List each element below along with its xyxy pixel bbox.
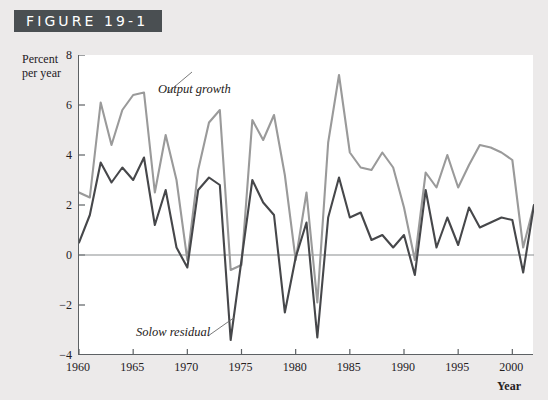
x-axis-title: Year — [497, 379, 521, 394]
x-tick-label: 1975 — [217, 360, 265, 375]
y-tick-label: 8 — [46, 48, 72, 63]
line-series-solow-residual — [79, 158, 534, 341]
plot-area — [78, 55, 533, 355]
figure-number-banner: FIGURE 19-1 — [14, 10, 162, 32]
y-axis-tick-marks — [79, 55, 85, 355]
x-tick-label: 1990 — [379, 360, 427, 375]
x-tick-label: 1980 — [271, 360, 319, 375]
x-axis-tick-marks — [79, 349, 512, 355]
y-tick-label: 6 — [46, 98, 72, 113]
y-tick-label: 2 — [46, 198, 72, 213]
series-label-solow-residual: Solow residual — [136, 325, 210, 340]
x-tick-label: 2000 — [487, 360, 535, 375]
x-axis-tick-labels: 196019651970197519801985199019952000 — [78, 360, 533, 378]
y-axis-tick-labels: 86420−2−4 — [44, 55, 72, 355]
x-tick-label: 1970 — [162, 360, 210, 375]
x-tick-label: 1985 — [325, 360, 373, 375]
x-tick-label: 1965 — [108, 360, 156, 375]
series-label-output-growth: Output growth — [158, 82, 231, 97]
x-tick-label: 1995 — [433, 360, 481, 375]
line-series-output-growth — [79, 75, 534, 303]
chart-canvas — [79, 55, 534, 355]
y-tick-label: −2 — [46, 298, 72, 313]
y-tick-label: 0 — [46, 248, 72, 263]
y-tick-label: 4 — [46, 148, 72, 163]
figure-container: FIGURE 19-1 Percent per year 86420−2−4 1… — [0, 0, 548, 400]
x-tick-label: 1960 — [54, 360, 102, 375]
figure-number-label: FIGURE 19-1 — [26, 13, 148, 29]
